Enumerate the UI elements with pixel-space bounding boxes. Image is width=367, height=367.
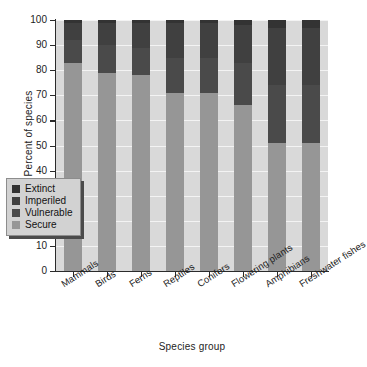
gridline [56,20,328,21]
legend-item[interactable]: Vulnerable [12,207,72,219]
bar-segment-secure [132,75,150,271]
y-axis-tick [50,171,55,172]
bar-segment-vulnerable [234,63,252,106]
y-axis-tick [50,95,55,96]
y-axis-tick-label: 0 [5,266,47,276]
bar-segment-extinct [98,20,116,23]
y-axis-tick-label: 80 [5,65,47,75]
legend-item[interactable]: Extinct [12,183,72,195]
bar-segment-vulnerable [98,45,116,73]
bar-segment-secure [64,63,82,271]
bar-segment-vulnerable [64,40,82,63]
legend-label: Extinct [25,184,55,194]
bar-segment-imperiled [166,23,184,58]
legend-swatch-icon [12,221,20,229]
y-axis-tick-label: 70 [5,90,47,100]
bar-segment-vulnerable [200,58,218,93]
bar-group[interactable] [234,20,252,271]
bar-segment-secure [200,93,218,271]
y-axis-tick [50,20,55,21]
legend-item[interactable]: Imperiled [12,195,72,207]
plot-area [56,20,328,271]
y-axis-tick [50,70,55,71]
bar-segment-imperiled [64,23,82,41]
y-axis-tick [50,146,55,147]
bar-segment-vulnerable [268,85,286,143]
bar-segment-secure [234,105,252,271]
bar-segment-imperiled [200,23,218,58]
bar-segment-extinct [132,20,150,23]
chart-legend: ExtinctImperiledVulnerableSecure [6,178,81,236]
bar-group[interactable] [302,20,320,271]
bar-segment-vulnerable [166,58,184,93]
gridline [56,120,328,121]
y-axis-tick [50,271,55,272]
legend-swatch-icon [12,185,20,193]
legend-swatch-icon [12,209,20,217]
y-axis-tick-label: 90 [5,40,47,50]
bar-group[interactable] [98,20,116,271]
bar-segment-secure [166,93,184,271]
gridline [56,146,328,147]
bar-segment-secure [98,73,116,271]
bar-segment-extinct [234,20,252,25]
bar-segment-imperiled [98,23,116,46]
bar-group[interactable] [132,20,150,271]
gridline [56,95,328,96]
y-axis-tick-label: 40 [5,166,47,176]
gridline [56,196,328,197]
bar-segment-extinct [268,20,286,28]
bar-segment-vulnerable [302,85,320,143]
y-axis-tick [50,120,55,121]
bar-segment-imperiled [234,25,252,63]
y-axis-tick-label: 10 [5,241,47,251]
bar-segment-imperiled [268,28,286,86]
bar-group[interactable] [166,20,184,271]
bar-segment-imperiled [302,28,320,86]
bar-segment-vulnerable [132,48,150,76]
legend-item[interactable]: Secure [12,219,72,231]
legend-swatch-icon [12,197,20,205]
bar-segment-extinct [166,20,184,23]
y-axis-tick-label: 100 [5,15,47,25]
y-axis-tick [50,45,55,46]
y-axis-tick [50,246,55,247]
y-axis-tick-label: 60 [5,115,47,125]
y-axis-tick-label: 50 [5,141,47,151]
legend-label: Vulnerable [25,208,72,218]
gridline [56,221,328,222]
bar-segment-extinct [64,20,82,23]
bar-group[interactable] [268,20,286,271]
bar-segment-imperiled [132,23,150,48]
gridline [56,45,328,46]
legend-label: Imperiled [25,196,66,206]
gridline [56,70,328,71]
bar-group[interactable] [200,20,218,271]
x-axis-title: Species group [56,341,328,352]
bar-segment-extinct [200,20,218,23]
legend-label: Secure [25,220,57,230]
gridline [56,171,328,172]
bar-segment-extinct [302,20,320,28]
